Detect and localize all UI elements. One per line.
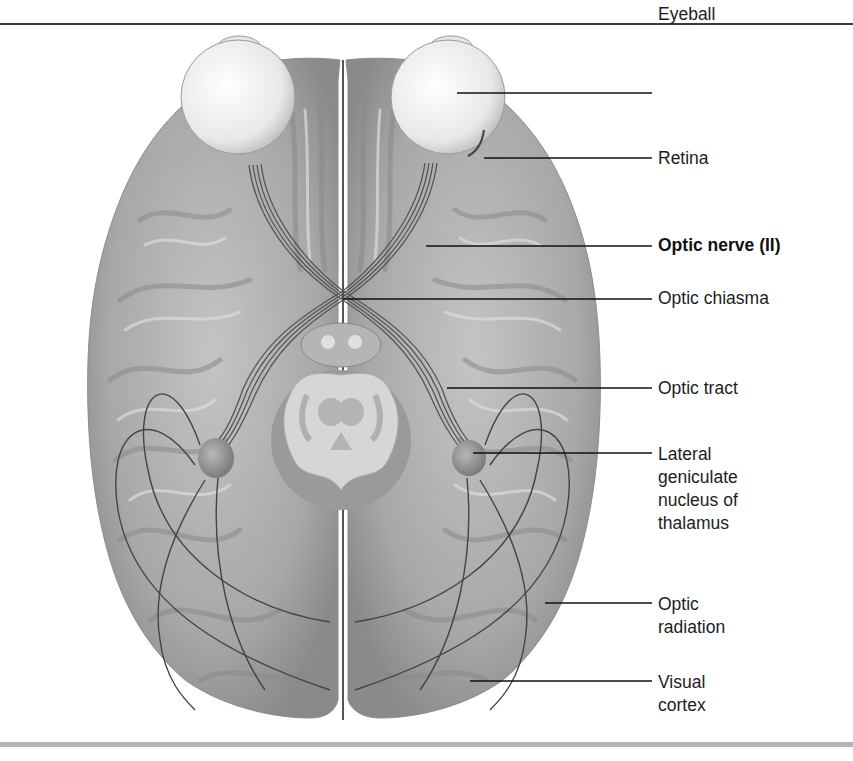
label-retina: Retina	[658, 147, 709, 170]
label-optic-tract: Optic tract	[658, 377, 738, 400]
label-eyeball: Eyeball	[658, 3, 715, 26]
label-line: Optic nerve (II)	[658, 234, 781, 257]
label-line: thalamus	[658, 512, 738, 535]
right-eyeball	[391, 36, 505, 156]
label-line: geniculate	[658, 466, 738, 489]
label-line: radiation	[658, 616, 725, 639]
label-line: cortex	[658, 694, 706, 717]
label-line: Lateral	[658, 443, 738, 466]
bottom-rule	[0, 742, 853, 747]
label-optic-chiasma: Optic chiasma	[658, 287, 769, 310]
label-line: Optic tract	[658, 377, 738, 400]
left-lateral-geniculate	[198, 438, 234, 478]
label-visual-cortex: Visualcortex	[658, 671, 706, 717]
label-line: nucleus of	[658, 489, 738, 512]
right-lateral-geniculate	[452, 440, 486, 476]
label-line: Visual	[658, 671, 706, 694]
label-line: Optic chiasma	[658, 287, 769, 310]
label-optic-nerve: Optic nerve (II)	[658, 234, 781, 257]
label-line: Eyeball	[658, 3, 715, 26]
label-optic-radiation: Opticradiation	[658, 593, 725, 639]
label-line: Retina	[658, 147, 709, 170]
left-eyeball	[181, 36, 295, 154]
label-lateral-geniculate: Lateralgeniculatenucleus ofthalamus	[658, 443, 738, 535]
label-line: Optic	[658, 593, 725, 616]
